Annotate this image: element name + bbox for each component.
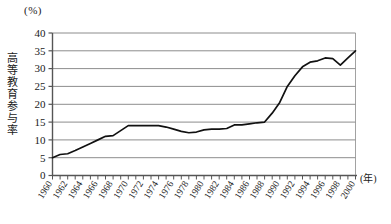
x-tick-label: 1996 [308,179,327,201]
chart-container: (%) 高等教育参与率 (年) 0510152025303540 1960196… [0,0,391,224]
x-tick-label: 1964 [66,179,85,201]
x-tick-label: 1992 [278,179,297,201]
x-tick-label: 1966 [81,179,100,201]
x-tick-label: 1982 [202,179,221,201]
y-tick-label: 5 [40,152,46,164]
y-tick-label: 25 [35,80,47,92]
x-tick-label: 1960 [36,179,55,201]
x-tick-label: 1980 [187,179,206,201]
y-axis-tick-labels: 0510152025303540 [35,27,47,182]
y-tick-label: 35 [35,45,47,57]
y-tick-label: 20 [35,98,47,110]
x-tick-label: 1976 [157,179,176,201]
x-tick-label: 1974 [142,179,161,201]
y-tick-label: 15 [35,116,47,128]
x-tick-label: 1978 [172,179,191,201]
x-tick-label: 1962 [51,179,70,201]
x-tick-label: 1970 [111,179,130,201]
y-tick-label: 30 [35,62,47,74]
x-tick-label: 1998 [323,179,342,201]
line-chart-plot: 0510152025303540 19601962196419661968197… [0,0,391,224]
x-tick-label: 1988 [248,179,267,201]
x-tick-label: 1968 [96,179,115,201]
x-tick-label: 1990 [263,179,282,201]
x-axis-tick-labels: 1960196219641966196819701972197419761978… [36,179,358,201]
x-tick-label: 1984 [217,179,236,201]
x-tick-label: 1994 [293,179,312,201]
x-tick-label: 1986 [233,179,252,201]
y-tick-label: 10 [35,134,47,146]
x-tick-label: 2000 [339,179,358,201]
y-tick-label: 40 [35,27,47,39]
x-tick-label: 1972 [127,179,146,201]
